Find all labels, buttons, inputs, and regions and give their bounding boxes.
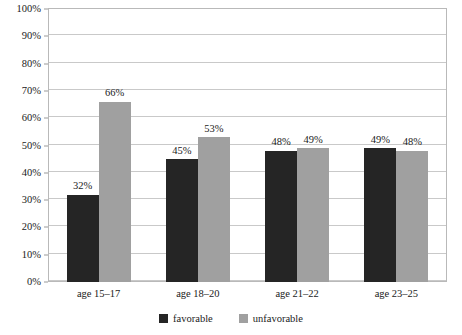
- y-axis-tick-label: 10%: [22, 249, 41, 260]
- bar-value-label: 48%: [396, 137, 428, 148]
- bar-favorable: [166, 159, 198, 282]
- bar-value-label: 45%: [166, 146, 198, 157]
- y-axis-tick-label: 70%: [22, 86, 41, 97]
- x-axis: age 15–17age 18–20age 21–22age 23–25: [49, 288, 446, 304]
- y-axis-tick-label: 0%: [27, 277, 41, 288]
- bar-unfavorable: [99, 102, 131, 282]
- bar-unfavorable: [396, 151, 428, 282]
- y-axis-tick-mark: [44, 9, 48, 10]
- chart-legend: favorableunfavorable: [0, 313, 462, 324]
- y-axis-tick-label: 20%: [22, 222, 41, 233]
- y-axis-tick-mark: [44, 118, 48, 119]
- legend-label: unfavorable: [253, 313, 303, 324]
- bar-chart: 0%10%20%30%40%50%60%70%80%90%100% 32%66%…: [0, 0, 462, 335]
- y-axis-tick-label: 50%: [22, 140, 41, 151]
- y-axis-tick-label: 100%: [17, 4, 42, 15]
- bar-group: 49%48%: [364, 9, 428, 282]
- bar-favorable: [265, 151, 297, 282]
- y-axis-tick-label: 40%: [22, 168, 41, 179]
- bar-value-label: 48%: [265, 137, 297, 148]
- bar-group: 45%53%: [166, 9, 230, 282]
- bars-layer: 32%66%45%53%48%49%49%48%: [49, 9, 446, 282]
- y-axis-tick-mark: [44, 282, 48, 283]
- legend-label: favorable: [173, 313, 213, 324]
- legend-item: unfavorable: [239, 313, 303, 324]
- bar-favorable: [67, 195, 99, 282]
- bar-value-label: 49%: [364, 135, 396, 146]
- legend-swatch-favorable: [159, 314, 168, 323]
- y-axis: 0%10%20%30%40%50%60%70%80%90%100%: [0, 0, 48, 290]
- y-axis-tick-mark: [44, 36, 48, 37]
- y-axis-tick-mark: [44, 145, 48, 146]
- y-axis-tick-mark: [44, 227, 48, 228]
- y-axis-tick-label: 90%: [22, 31, 41, 42]
- bar-favorable: [364, 148, 396, 282]
- bar-value-label: 53%: [198, 124, 230, 135]
- bar-group: 32%66%: [67, 9, 131, 282]
- legend-swatch-unfavorable: [239, 314, 248, 323]
- legend-item: favorable: [159, 313, 213, 324]
- y-axis-tick-mark: [44, 90, 48, 91]
- y-axis-tick-label: 30%: [22, 195, 41, 206]
- bar-value-label: 32%: [67, 181, 99, 192]
- bar-value-label: 49%: [297, 135, 329, 146]
- y-axis-tick-mark: [44, 172, 48, 173]
- x-axis-tick-label: age 23–25: [336, 288, 456, 300]
- bar-unfavorable: [297, 148, 329, 282]
- y-axis-tick-mark: [44, 254, 48, 255]
- bar-group: 48%49%: [265, 9, 329, 282]
- y-axis-tick-mark: [44, 63, 48, 64]
- y-axis-tick-mark: [44, 200, 48, 201]
- bar-value-label: 66%: [99, 88, 131, 99]
- y-axis-tick-label: 60%: [22, 113, 41, 124]
- y-axis-tick-label: 80%: [22, 58, 41, 69]
- bar-unfavorable: [198, 137, 230, 282]
